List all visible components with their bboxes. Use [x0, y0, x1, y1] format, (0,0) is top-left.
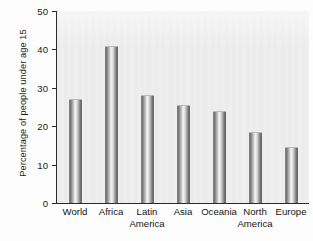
- bar: [69, 99, 82, 203]
- bar: [285, 147, 298, 203]
- y-tick-label: 10: [8, 159, 48, 170]
- x-axis-label: Europe: [254, 206, 313, 218]
- y-tick-label: 30: [8, 82, 48, 93]
- bar: [213, 111, 226, 203]
- y-tick-label: 50: [8, 6, 48, 17]
- y-tick-mark: [52, 88, 57, 89]
- bar: [105, 46, 118, 203]
- y-tick-mark: [52, 49, 57, 50]
- y-tick-mark: [52, 203, 57, 204]
- x-axis-line: [56, 203, 309, 204]
- y-tick-label: 40: [8, 44, 48, 55]
- bar: [249, 132, 262, 203]
- y-axis-title: Percentage of people under age 15: [18, 3, 28, 203]
- x-axis-label-line2: America: [110, 218, 184, 230]
- y-tick-mark: [52, 126, 57, 127]
- x-axis-label-line1: Europe: [276, 206, 307, 217]
- y-axis-line: [56, 11, 57, 204]
- x-axis-label-line2: America: [218, 218, 292, 230]
- bar: [141, 95, 154, 203]
- y-tick-label: 20: [8, 121, 48, 132]
- bar-chart: Percentage of people under age 15 010203…: [0, 0, 313, 241]
- y-tick-mark: [52, 11, 57, 12]
- bar: [177, 105, 190, 203]
- y-tick-mark: [52, 165, 57, 166]
